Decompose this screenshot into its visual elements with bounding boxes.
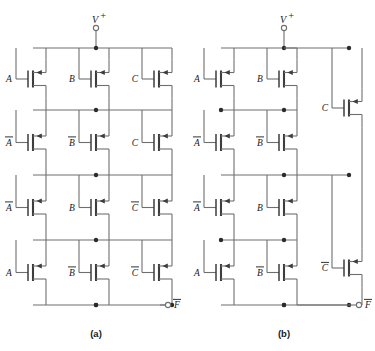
signal-label-a-r1-c1-text: B [69, 138, 75, 148]
output-label-b-text: F [364, 300, 371, 310]
transistor-b-r0-c0 [204, 60, 234, 99]
signal-label-a-r1-c0: A [5, 137, 13, 148]
signal-label-a-r3-c0-text: A [5, 268, 12, 278]
transistor-a-r1-c2-arrow [162, 134, 167, 139]
signal-label-a-r2-c2-text: C [132, 203, 139, 213]
signal-label-b-side-1: C [321, 262, 329, 273]
transistor-b-side-1-arrow [352, 259, 357, 264]
transistor-a-r1-c1 [79, 123, 109, 162]
transistor-a-r2-c1 [79, 188, 109, 227]
transistor-a-r3-c2 [142, 253, 172, 292]
supply-terminal-b [281, 25, 286, 30]
signal-label-a-r0-c0-text: A [5, 74, 12, 84]
supply-plus-a: + [100, 10, 107, 21]
signal-label-b-r3-c0: A [193, 268, 200, 278]
transistor-a-r0-c0-arrow [36, 70, 41, 75]
rail-node-a-2 [94, 173, 98, 177]
transistor-b-r2-c0 [204, 188, 234, 227]
signal-label-a-r0-c1: B [69, 74, 75, 84]
transistor-b-r1-c0-arrow [224, 134, 229, 139]
signal-label-b-side-1-text: C [322, 263, 329, 273]
signal-label-b-r2-c1: B [257, 203, 263, 213]
rail-node-a-3 [94, 238, 98, 242]
transistor-a-r3-c0 [16, 253, 46, 292]
transistor-b-r3-c1-arrow [287, 264, 292, 269]
rail-node-b-3 [282, 238, 286, 242]
signal-label-b-r3-c1-text: B [257, 268, 263, 278]
output-label-a: F [173, 299, 181, 310]
side-node-b-top-hidden [347, 46, 351, 50]
supply-plus-b: + [288, 10, 295, 21]
transistor-b-r0-c1 [267, 60, 297, 99]
transistor-b-side-0 [332, 89, 362, 128]
transistor-a-r2-c2 [142, 188, 172, 227]
rail-node-b-2 [282, 173, 286, 177]
signal-label-a-r0-c2: C [132, 74, 139, 84]
signal-label-a-r1-c1: B [68, 137, 76, 148]
signal-label-b-r0-c0: A [193, 74, 200, 84]
transistor-b-r3-c1 [267, 253, 297, 292]
signal-label-a-r1-c0-text: A [5, 138, 12, 148]
transistor-b-r2-c0-arrow [224, 199, 229, 204]
transistor-a-r1-c1-arrow [99, 134, 104, 139]
caption-a: (a) [90, 328, 102, 339]
output-node-a [94, 303, 98, 307]
signal-label-a-r3-c2: C [131, 267, 139, 278]
transistor-b-side-0-arrow [352, 99, 357, 104]
transistor-a-r1-c2 [142, 123, 172, 162]
signal-label-b-r0-c1-text: B [257, 74, 263, 84]
signal-label-a-r2-c2: C [131, 202, 139, 213]
transistor-a-r0-c1-arrow [99, 70, 104, 75]
transistor-a-r0-c2 [142, 60, 172, 99]
circuit-diagram: V+ABCABCABCABCF(a)V+ABABABABCCF(b) [0, 0, 375, 351]
transistor-a-r2-c1-arrow [99, 199, 104, 204]
transistor-a-r0-c1 [79, 60, 109, 99]
transistor-b-r1-c0 [204, 123, 234, 162]
transistor-b-r0-c0-arrow [224, 70, 229, 75]
transistor-a-r3-c2-arrow [162, 264, 167, 269]
transistor-b-r2-c1-arrow [287, 199, 292, 204]
signal-label-a-r2-c0-text: A [5, 203, 12, 213]
transistor-a-r3-c1-arrow [99, 264, 104, 269]
transistor-a-r2-c0-arrow [36, 199, 41, 204]
signal-label-b-r2-c1-text: B [257, 203, 263, 213]
output-label-b: F [364, 299, 372, 310]
output-terminal-b [356, 302, 361, 307]
transistor-b-r1-c1-arrow [287, 134, 292, 139]
signal-label-a-r2-c1: B [69, 203, 75, 213]
transistor-b-r3-c0 [204, 253, 234, 292]
signal-label-a-r1-c2-text: C [132, 138, 139, 148]
transistor-b-r2-c1 [267, 188, 297, 227]
transistor-a-r2-c0 [16, 188, 46, 227]
signal-label-b-r0-c1: B [257, 74, 263, 84]
rail-node-b-1 [282, 108, 286, 112]
supply-terminal-a [93, 25, 98, 30]
signal-label-a-r0-c1-text: B [69, 74, 75, 84]
transistor-a-r3-c0-arrow [36, 264, 41, 269]
transistor-b-side-1 [332, 249, 362, 288]
caption-b: (b) [278, 328, 290, 339]
signal-label-a-r0-c2-text: C [132, 74, 139, 84]
output-terminal-a [165, 302, 170, 307]
transistor-a-r0-c2-arrow [162, 70, 167, 75]
transistor-b-r0-c1-arrow [287, 70, 292, 75]
signal-label-b-r1-c1-text: B [257, 138, 263, 148]
signal-label-b-r2-c0-text: A [193, 203, 200, 213]
transistor-b-r1-c1 [267, 123, 297, 162]
signal-label-a-r2-c0: A [5, 202, 13, 213]
side-node-b-mid [347, 173, 351, 177]
transistor-b-r3-c0-arrow [224, 264, 229, 269]
figure-canvas: V+ABCABCABCABCF(a)V+ABABABABCCF(b) [0, 0, 375, 351]
signal-label-b-r3-c0-text: A [193, 268, 200, 278]
transistor-a-r1-c0 [16, 123, 46, 162]
signal-label-a-r1-c2: C [132, 138, 139, 148]
signal-label-b-r0-c0-text: A [193, 74, 200, 84]
signal-label-b-r3-c1: B [256, 267, 264, 278]
transistor-a-r1-c0-arrow [36, 134, 41, 139]
signal-label-b-r1-c1: B [256, 137, 264, 148]
signal-label-a-r3-c1: B [68, 267, 76, 278]
signal-label-a-r3-c0: A [5, 268, 12, 278]
transistor-a-r0-c0 [16, 60, 46, 99]
signal-label-b-r1-c0: A [193, 137, 201, 148]
signal-label-a-r2-c1-text: B [69, 203, 75, 213]
